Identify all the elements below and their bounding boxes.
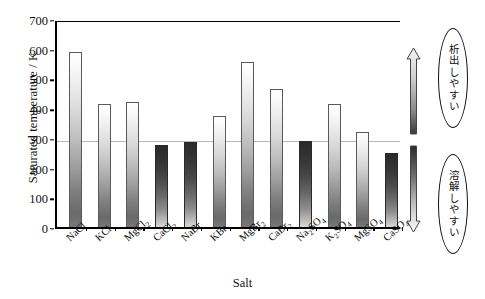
annotation-panel: 析出しやすい 溶解しやすい xyxy=(404,21,485,229)
y-tick-mark xyxy=(50,109,54,110)
y-tick-label: 500 xyxy=(0,73,48,88)
y-tick-label: 100 xyxy=(0,192,48,207)
chart-figure: Saturated temperature / K 01002003004005… xyxy=(0,0,485,299)
bar-column xyxy=(270,89,283,227)
annotation-bubble-precipitate: 析出しやすい xyxy=(438,28,468,128)
y-tick-label: 200 xyxy=(0,162,48,177)
bar-column xyxy=(213,116,226,227)
y-tick-mark xyxy=(50,228,54,229)
y-tick-mark xyxy=(50,80,54,81)
bar-column xyxy=(299,141,312,227)
y-tick-mark xyxy=(50,139,54,140)
y-tick-label: 400 xyxy=(0,103,48,118)
bar-CaBr2 xyxy=(270,89,283,227)
bar-NaBr xyxy=(184,142,197,227)
bar-column xyxy=(385,153,398,227)
bar-CaSO4 xyxy=(385,153,398,227)
annotation-text-dissolve: 溶解しやすい xyxy=(448,170,459,238)
bar-column xyxy=(241,62,254,227)
y-tick-mark xyxy=(50,199,54,200)
plot-area xyxy=(55,21,400,229)
bar-K2SO4 xyxy=(328,104,341,227)
bar-series xyxy=(57,22,400,227)
bar-NaCl xyxy=(69,52,82,227)
bar-column xyxy=(356,132,369,227)
bar-CaCl2 xyxy=(155,145,168,227)
bar-Na2SO4 xyxy=(299,141,312,227)
y-tick-mark xyxy=(50,50,54,51)
annotation-text-precipitate: 析出しやすい xyxy=(448,44,459,112)
bar-KCl xyxy=(98,104,111,227)
bar-MgCl2 xyxy=(126,102,139,227)
bar-column xyxy=(155,145,168,227)
x-axis-title: Salt xyxy=(0,276,485,291)
y-tick-mark xyxy=(50,169,54,170)
arrow-down-svg xyxy=(406,145,421,233)
y-tick-label: 0 xyxy=(0,222,48,237)
bar-column xyxy=(126,102,139,227)
annotation-bubble-dissolve: 溶解しやすい xyxy=(438,154,468,254)
y-tick-mark xyxy=(50,20,54,21)
arrow-down-icon xyxy=(406,145,421,233)
bar-column xyxy=(98,104,111,227)
bar-column xyxy=(69,52,82,227)
bar-MgBr2 xyxy=(241,62,254,227)
arrow-up-icon xyxy=(406,47,421,135)
bar-column xyxy=(184,142,197,227)
x-tick-mark xyxy=(230,227,231,231)
x-tick-mark xyxy=(115,227,116,231)
y-tick-label: 600 xyxy=(0,43,48,58)
y-tick-label: 700 xyxy=(0,14,48,29)
bar-column xyxy=(328,104,341,227)
y-tick-label: 300 xyxy=(0,132,48,147)
bar-MgSO4 xyxy=(356,132,369,227)
arrow-up-svg xyxy=(406,47,421,135)
bar-KBr xyxy=(213,116,226,227)
